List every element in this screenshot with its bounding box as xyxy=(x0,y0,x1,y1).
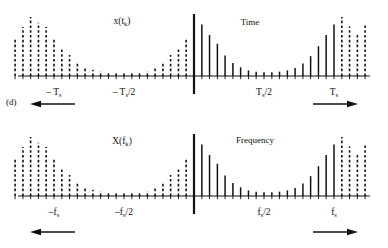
periodicity-arrow-right xyxy=(313,229,358,236)
x-tick-label: –fs xyxy=(48,207,60,218)
panel-time: – Ts– Ts/2Ts/2Tsx(tk)Time xyxy=(15,14,370,107)
x-tick-label: fs xyxy=(331,207,337,218)
periodicity-arrow-left xyxy=(30,101,75,108)
x-tick-label: Ts/2 xyxy=(256,87,272,98)
domain-label: Frequency xyxy=(236,135,274,145)
arrow-head-left xyxy=(30,229,41,236)
x-tick-label: Ts xyxy=(330,87,339,98)
x-tick-label: –fs/2 xyxy=(114,207,133,218)
arrow-head-left xyxy=(30,101,41,108)
signal-label: x(tk) xyxy=(113,16,130,27)
panel-frequency: –fs–fs/2fs/2fsX(fk)Frequency xyxy=(15,134,370,235)
x-tick-label: – Ts xyxy=(45,87,62,98)
figure-root: – Ts– Ts/2Ts/2Tsx(tk)Time –fs–fs/2fs/2fs… xyxy=(0,0,388,248)
periodicity-arrow-right xyxy=(313,101,358,108)
x-tick-label: – Ts/2 xyxy=(112,87,136,98)
panel-letter-label: (d) xyxy=(6,97,17,107)
arrow-head-right xyxy=(347,229,358,236)
periodicity-arrow-left xyxy=(30,229,75,236)
domain-label: Time xyxy=(241,17,260,27)
x-tick-label: fs/2 xyxy=(257,207,270,218)
arrow-head-right xyxy=(347,101,358,108)
signal-label: X(fk) xyxy=(112,136,132,147)
